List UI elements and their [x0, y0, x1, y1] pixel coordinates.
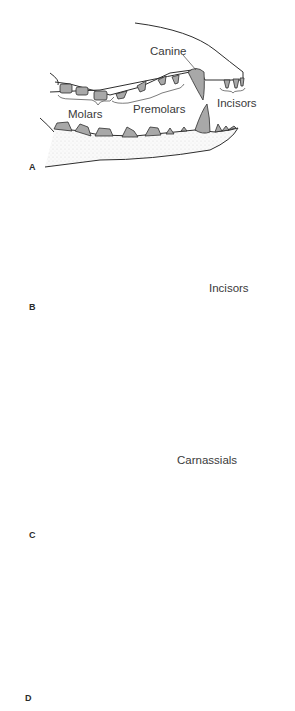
panel-label-b: B — [29, 302, 36, 312]
label-incisors-a: Incisors — [217, 97, 257, 109]
panel-label-c: C — [29, 530, 36, 540]
label-premolars: Premolars — [133, 103, 185, 115]
label-carnassials: Carnassials — [177, 454, 237, 466]
label-canine: Canine — [150, 45, 186, 57]
panel-label-a: A — [29, 162, 36, 172]
panel-label-d: D — [25, 693, 32, 703]
label-incisors-b: Incisors — [209, 282, 249, 294]
panel-a-jaw — [40, 23, 243, 167]
label-molars: Molars — [68, 108, 103, 120]
